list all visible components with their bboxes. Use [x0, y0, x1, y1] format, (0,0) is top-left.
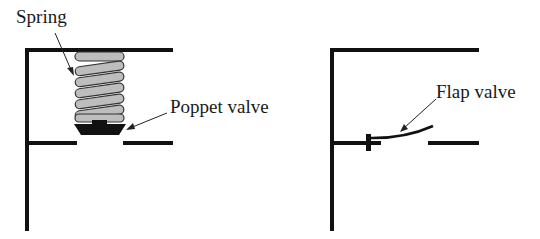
poppet-valve-label: Poppet valve [170, 96, 269, 118]
flap-arrow [404, 99, 436, 128]
poppet-arrowhead [126, 123, 135, 130]
flap-valve-label: Flap valve [436, 81, 516, 103]
spring-label: Spring [16, 6, 67, 28]
valve-diagrams [0, 0, 540, 239]
poppet-arrow [130, 113, 167, 128]
hinge-pin [366, 134, 371, 151]
flap-valve-diagram [330, 48, 479, 231]
flap-valve [366, 126, 433, 138]
spring [75, 52, 125, 122]
spring-arrow [55, 33, 72, 72]
spring-arrowhead [67, 67, 74, 76]
poppet-valve-diagram [25, 33, 173, 231]
